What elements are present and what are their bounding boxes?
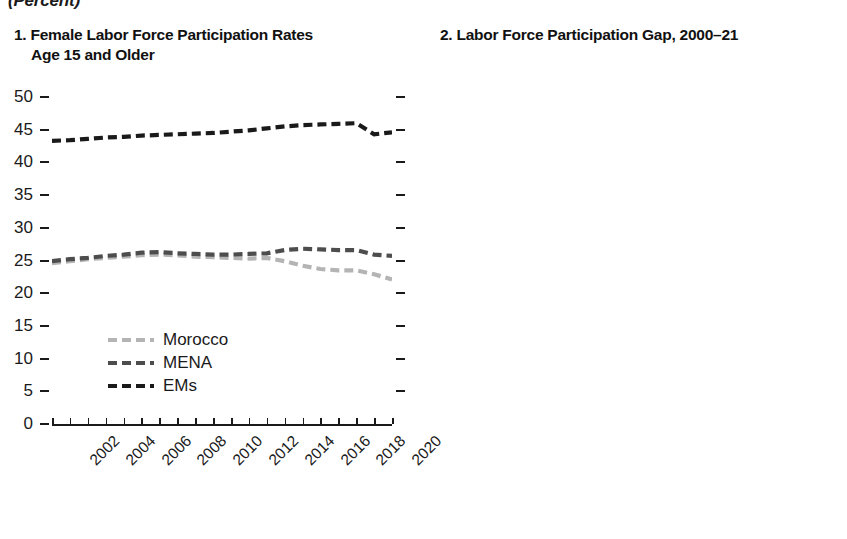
- x-tick-mark: [392, 418, 394, 424]
- y-tick-mark: [40, 260, 49, 262]
- x-tick-label: 2016: [337, 432, 374, 469]
- y-tick-mark: [40, 423, 49, 425]
- legend-item-morocco: Morocco: [108, 328, 228, 351]
- x-tick-mark: [124, 418, 126, 424]
- y-tick-mark-right: [396, 260, 405, 262]
- y-tick-mark: [40, 227, 49, 229]
- x-tick-label: 2012: [265, 432, 302, 469]
- y-tick-label: 0: [0, 415, 33, 432]
- y-tick-label: 40: [0, 153, 33, 170]
- legend-dash-swatch: [108, 384, 154, 388]
- y-tick-label: 45: [0, 121, 33, 138]
- y-tick-mark-right: [396, 194, 405, 196]
- y-tick-mark: [40, 325, 49, 327]
- panel-participation-gap: 2. Labor Force Participation Gap, 2000–2…: [430, 0, 847, 539]
- y-tick-mark-right: [396, 390, 405, 392]
- x-tick-mark: [70, 418, 72, 424]
- y-tick-label: 10: [0, 350, 33, 367]
- x-tick-mark: [356, 418, 358, 424]
- x-tick-mark: [267, 418, 269, 424]
- y-tick-mark: [40, 358, 49, 360]
- y-tick-label: 30: [0, 219, 33, 236]
- legend-item-mena: MENA: [108, 351, 228, 374]
- y-tick-mark: [40, 292, 49, 294]
- x-tick-label: 2006: [158, 432, 195, 469]
- y-tick-label: 25: [0, 252, 33, 269]
- panel2-title: 2. Labor Force Participation Gap, 2000–2…: [440, 25, 845, 45]
- line-series-morocco: [52, 255, 392, 280]
- panel1-title: 1. Female Labor Force Participation Rate…: [14, 25, 414, 64]
- y-tick-mark-right: [396, 227, 405, 229]
- y-tick-mark-right: [396, 292, 405, 294]
- y-tick-mark: [40, 390, 49, 392]
- x-tick-label: 2018: [372, 432, 409, 469]
- x-tick-mark: [303, 418, 305, 424]
- x-tick-mark: [213, 418, 215, 424]
- y-tick-mark-right: [396, 129, 405, 131]
- legend-dash-swatch: [108, 361, 154, 365]
- line-chart-legend: MoroccoMENAEMs: [108, 328, 228, 397]
- line-series-ems: [52, 123, 392, 141]
- x-tick-mark: [231, 418, 233, 424]
- x-tick-label: 2002: [86, 432, 123, 469]
- panel1-title-line1: 1. Female Labor Force Participation Rate…: [14, 26, 313, 43]
- x-tick-mark: [338, 418, 340, 424]
- x-tick-label: 2014: [301, 432, 338, 469]
- x-tick-mark: [195, 418, 197, 424]
- y-tick-mark: [40, 161, 49, 163]
- x-tick-mark: [374, 418, 376, 424]
- legend-label: EMs: [163, 377, 197, 394]
- x-tick-mark: [320, 418, 322, 424]
- x-tick-label: 2010: [229, 432, 266, 469]
- x-tick-mark: [285, 418, 287, 424]
- x-tick-mark: [177, 418, 179, 424]
- x-tick-mark: [159, 418, 161, 424]
- y-tick-mark-right: [396, 325, 405, 327]
- y-tick-label: 5: [0, 382, 33, 399]
- legend-dash-swatch: [108, 338, 154, 342]
- x-tick-label: 2008: [193, 432, 230, 469]
- x-tick-mark: [249, 418, 251, 424]
- y-tick-label: 20: [0, 284, 33, 301]
- panel1-title-line2: Age 15 and Older: [14, 45, 414, 65]
- y-tick-mark: [40, 96, 49, 98]
- x-tick-mark: [88, 418, 90, 424]
- x-tick-mark: [52, 418, 54, 424]
- legend-item-ems: EMs: [108, 374, 228, 397]
- x-tick-label: 2004: [122, 432, 159, 469]
- y-tick-mark: [40, 194, 49, 196]
- legend-label: MENA: [163, 354, 212, 371]
- y-tick-mark-right: [396, 161, 405, 163]
- figure-container: (Percent) 1. Female Labor Force Particip…: [0, 0, 847, 539]
- y-tick-label: 50: [0, 88, 33, 105]
- y-tick-label: 35: [0, 186, 33, 203]
- y-tick-mark-right: [396, 358, 405, 360]
- legend-label: Morocco: [163, 331, 228, 348]
- x-axis-line: [52, 424, 392, 426]
- panel-female-labor-force: 1. Female Labor Force Participation Rate…: [0, 0, 430, 539]
- y-tick-mark-right: [396, 96, 405, 98]
- y-tick-mark: [40, 129, 49, 131]
- y-tick-label: 15: [0, 317, 33, 334]
- x-tick-mark: [141, 418, 143, 424]
- x-tick-mark: [106, 418, 108, 424]
